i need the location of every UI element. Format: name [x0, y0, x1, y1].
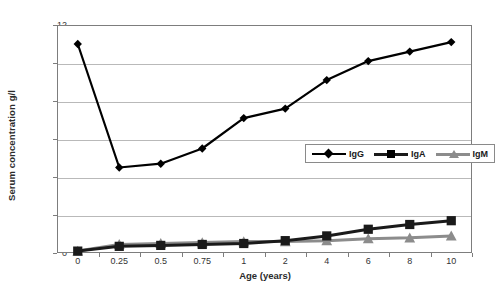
data-series-layer — [57, 25, 472, 253]
x-axis-tick-label: 1 — [224, 256, 264, 266]
y-axis-title: Serum concentration g/l — [0, 0, 22, 291]
legend-swatch — [436, 148, 470, 159]
legend-label: IgG — [349, 149, 364, 159]
data-point-marker — [115, 163, 123, 171]
x-axis-tick-label: 0.5 — [141, 256, 181, 266]
legend-swatch — [374, 148, 408, 159]
legend-swatch — [312, 148, 346, 159]
chart-legend: IgGIgAIgM — [305, 144, 495, 163]
x-axis-tick-label: 6 — [348, 256, 388, 266]
x-axis-tick-label: 8 — [390, 256, 430, 266]
data-point-marker — [73, 247, 82, 256]
x-axis-tick-label: 0.25 — [99, 256, 139, 266]
data-point-marker — [405, 220, 414, 229]
legend-marker — [449, 150, 459, 158]
legend-label: IgA — [411, 149, 426, 159]
legend-marker — [325, 150, 332, 157]
legend-entry-iga: IgA — [374, 148, 426, 159]
data-point-marker — [447, 216, 456, 225]
data-point-marker — [74, 40, 82, 48]
data-point-marker — [281, 236, 290, 245]
data-point-marker — [239, 239, 248, 248]
legend-entry-igm: IgM — [436, 148, 489, 159]
x-axis-tick-label: 0 — [58, 256, 98, 266]
series-iga — [73, 216, 456, 256]
data-point-marker — [447, 38, 455, 46]
diamond-marker-icon — [324, 149, 334, 159]
x-axis-tick-label: 10 — [431, 256, 471, 266]
legend-label: IgM — [473, 149, 489, 159]
legend-marker — [387, 150, 395, 158]
data-point-marker — [322, 231, 331, 240]
data-point-marker — [115, 242, 124, 251]
x-axis-tick-mark — [472, 253, 473, 257]
data-point-marker — [406, 47, 414, 55]
x-axis-title: Age (years) — [57, 270, 473, 281]
series-line — [78, 221, 452, 251]
triangle-marker-icon — [449, 150, 459, 158]
data-point-marker — [364, 225, 373, 234]
x-axis-tick-label: 2 — [265, 256, 305, 266]
x-axis-tick-label: 0.75 — [182, 256, 222, 266]
x-axis-tick-label: 4 — [307, 256, 347, 266]
data-point-marker — [364, 57, 372, 65]
legend-entry-igg: IgG — [312, 148, 364, 159]
data-point-marker — [157, 160, 165, 168]
y-axis-tick-mark — [53, 253, 57, 254]
square-marker-icon — [387, 150, 395, 158]
data-point-marker — [198, 240, 207, 249]
data-point-marker — [156, 241, 165, 250]
